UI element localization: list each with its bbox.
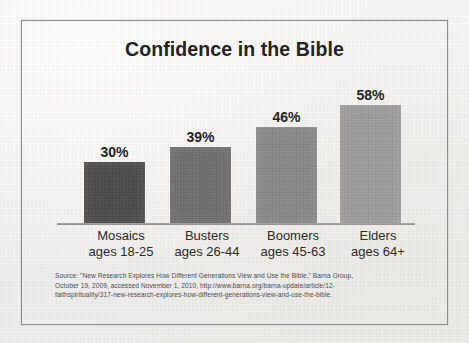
bar-slot-busters: 39% — [170, 147, 231, 224]
bar-slot-elders: 58% — [340, 105, 401, 224]
bar-elders — [340, 105, 401, 224]
category-label-mosaics: Mosaics ages 18-25 — [71, 228, 171, 259]
chart-title: Confidence in the Bible — [0, 38, 469, 61]
category-ages-elders: ages 64+ — [328, 244, 428, 260]
source-line-3: faithspirituality/317-new-research-explo… — [55, 290, 427, 300]
source-line-2: October 19, 2009, accessed November 1, 2… — [55, 281, 427, 291]
bar-slot-mosaics: 30% — [84, 162, 145, 224]
bar-boomers — [256, 127, 317, 224]
chart-page: Confidence in the Bible 30% 39% 46% 58% … — [0, 0, 469, 343]
category-ages-busters: ages 26-44 — [157, 244, 257, 260]
x-axis-baseline — [57, 223, 415, 225]
category-name-busters: Busters — [157, 228, 257, 244]
x-axis-category-labels: Mosaics ages 18-25 Busters ages 26-44 Bo… — [57, 228, 415, 270]
bar-mosaics — [84, 162, 145, 224]
bar-slot-boomers: 46% — [256, 127, 317, 224]
category-name-mosaics: Mosaics — [71, 228, 171, 244]
bar-value-boomers: 46% — [256, 109, 317, 125]
category-ages-mosaics: ages 18-25 — [71, 244, 171, 260]
bar-value-mosaics: 30% — [84, 144, 145, 160]
bar-busters — [170, 147, 231, 224]
bar-value-elders: 58% — [340, 87, 401, 103]
source-citation: Source: "New Research Explores How Diffe… — [55, 271, 427, 300]
source-line-1: Source: "New Research Explores How Diffe… — [55, 271, 427, 281]
category-name-elders: Elders — [328, 228, 428, 244]
bar-value-busters: 39% — [170, 129, 231, 145]
category-label-elders: Elders ages 64+ — [328, 228, 428, 259]
bar-chart-plot-area: 30% 39% 46% 58% — [60, 88, 412, 224]
category-label-busters: Busters ages 26-44 — [157, 228, 257, 259]
